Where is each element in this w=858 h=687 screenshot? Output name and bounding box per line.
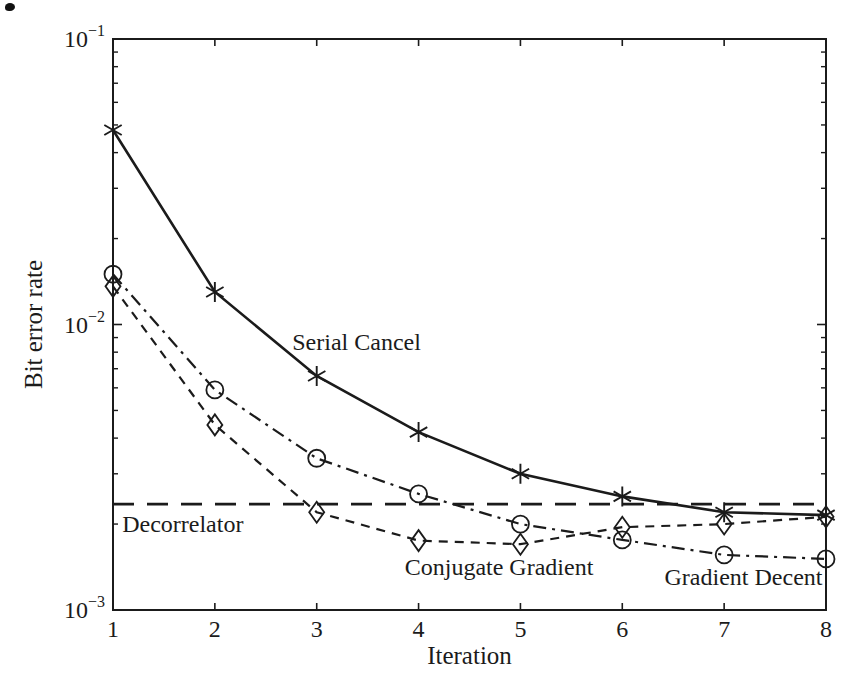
- marker-asterisk-serial-cancel: [206, 282, 223, 302]
- marker-circle-gradient-decent: [308, 450, 325, 467]
- ber-figure: 10−110−210−312345678Serial CancelDecorre…: [0, 0, 858, 687]
- y-tick-label: 10−1: [64, 22, 105, 52]
- x-tick-label: 2: [209, 616, 221, 642]
- ber-chart: 10−110−210−312345678Serial CancelDecorre…: [0, 0, 858, 687]
- y-tick-label: 10−3: [64, 593, 105, 623]
- marker-asterisk-serial-cancel: [512, 464, 529, 484]
- series-line-serial-cancel: [113, 130, 826, 515]
- x-tick-label: 6: [616, 616, 628, 642]
- y-axis-label: Bit error rate: [20, 260, 47, 389]
- x-tick-label: 3: [311, 616, 323, 642]
- x-tick-label: 1: [107, 616, 119, 642]
- annotation-conjugate-gradient: Conjugate Gradient: [405, 554, 594, 580]
- marker-asterisk-serial-cancel: [308, 366, 325, 386]
- marker-circle-gradient-decent: [206, 381, 223, 398]
- x-tick-label: 8: [820, 616, 832, 642]
- annotation-decorrelator: Decorrelator: [122, 511, 243, 537]
- scan-artifact: [5, 3, 15, 11]
- x-tick-label: 5: [514, 616, 526, 642]
- x-tick-label: 7: [718, 616, 730, 642]
- marker-asterisk-serial-cancel: [410, 422, 427, 442]
- series-line-conjugate-gradient: [113, 286, 826, 544]
- marker-asterisk-serial-cancel: [104, 120, 121, 140]
- x-axis-label: Iteration: [427, 642, 512, 669]
- y-tick-label: 10−2: [64, 308, 105, 338]
- annotation-gradient-decent: Gradient Decent: [665, 564, 823, 590]
- x-tick-label: 4: [413, 616, 425, 642]
- annotation-serial-cancel: Serial Cancel: [292, 329, 421, 355]
